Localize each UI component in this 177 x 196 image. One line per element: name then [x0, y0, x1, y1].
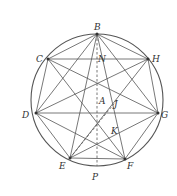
- segments-group: [36, 34, 158, 166]
- label-H: H: [151, 54, 160, 64]
- segment-DF: [36, 113, 125, 159]
- label-D: D: [21, 110, 29, 120]
- label-C: C: [36, 54, 43, 64]
- segment-CB: [48, 34, 97, 59]
- label-E: E: [58, 161, 66, 171]
- label-P: P: [91, 172, 99, 182]
- heptagon-diagram: B C H D G E F P A J K N: [0, 0, 177, 196]
- label-K: K: [110, 126, 119, 136]
- label-G: G: [161, 110, 168, 120]
- vertex-E: [69, 157, 72, 160]
- dashed-segment-EJ: [70, 100, 117, 158]
- segment-GF: [125, 113, 158, 159]
- segment-HG: [148, 59, 158, 113]
- segment-BE: [70, 34, 97, 158]
- vertex-H: [147, 58, 150, 61]
- label-B: B: [93, 22, 101, 32]
- vertex-D: [35, 112, 38, 115]
- vertex-C: [47, 58, 50, 61]
- segment-FE: [70, 158, 125, 159]
- label-A: A: [98, 96, 106, 106]
- vertex-B: [96, 33, 99, 36]
- label-N: N: [97, 54, 107, 64]
- label-F: F: [126, 161, 134, 171]
- points-group: [35, 33, 160, 161]
- label-J: J: [112, 99, 119, 109]
- segment-HD: [36, 59, 148, 113]
- vertex-G: [157, 112, 160, 115]
